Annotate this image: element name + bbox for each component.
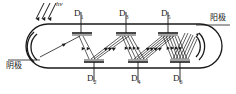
dynode-label-d6: D6 — [173, 74, 183, 85]
diagram-canvas — [0, 0, 236, 94]
dynode-d2-sub: 2 — [94, 79, 97, 85]
dynode-label-d5: D5 — [161, 9, 171, 20]
incident-light-label: hν — [56, 1, 63, 8]
dynode-label-d1: D1 — [74, 9, 84, 20]
electron-beam-d1-d2 — [79, 36, 95, 59]
dynode-d4-sub: 4 — [138, 79, 141, 85]
dynode-label-d4: D4 — [131, 74, 141, 85]
dynode-d3-sub: 3 — [126, 14, 129, 20]
tube-envelope — [26, 24, 222, 68]
pmt-diagram: hν 阴极 阳极 D1 D3 D5 D2 D4 D6 — [0, 0, 236, 94]
dynode-label-d3: D3 — [119, 9, 129, 20]
anode-electrode — [196, 33, 205, 60]
cathode-label: 阴极 — [6, 62, 22, 70]
dynode-d5-sub: 5 — [168, 14, 171, 20]
electron-beam-cathode-d1 — [40, 36, 80, 57]
dynode-d1-sub: 1 — [81, 14, 84, 20]
dynode-label-d2: D2 — [87, 74, 97, 85]
dynode-d6-sub: 6 — [180, 79, 183, 85]
anode-label: 阳极 — [210, 14, 226, 22]
incident-photon-arrows — [36, 3, 56, 21]
